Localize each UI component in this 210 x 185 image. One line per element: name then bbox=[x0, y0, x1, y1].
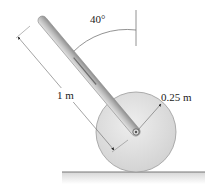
disk-radius-label: 0.25 m bbox=[161, 91, 192, 103]
rod-slot bbox=[74, 58, 96, 85]
mechanics-diagram: 1 m 0.25 m 40° bbox=[0, 0, 210, 185]
ground-shading bbox=[62, 172, 205, 184]
ground bbox=[62, 172, 205, 184]
angle-label: 40° bbox=[90, 13, 105, 25]
rod-length-label: 1 m bbox=[57, 89, 74, 101]
angle-arc bbox=[73, 29, 136, 52]
extension-line-top bbox=[16, 26, 30, 38]
pin-inner bbox=[135, 131, 137, 133]
rod bbox=[36, 14, 142, 138]
